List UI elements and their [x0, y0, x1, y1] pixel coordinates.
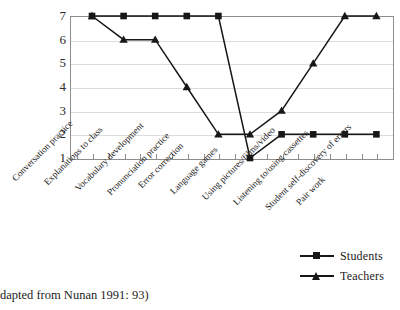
x-axis-label-6: Using pictures/films/video	[200, 125, 277, 202]
figure-caption: dapted from Nunan 1991: 93)	[0, 288, 149, 303]
x-axis-label-0: Conversation practice	[10, 118, 75, 183]
chart-legend: Students Teachers	[300, 246, 398, 286]
x-axis-label-2: Vocabulary development	[73, 121, 145, 193]
legend-label-teachers: Teachers	[340, 269, 384, 284]
figure-line-chart: 1234567 Conversation practiceExplanation…	[0, 0, 400, 310]
legend-item-students[interactable]: Students	[300, 246, 398, 266]
legend-item-teachers[interactable]: Teachers	[300, 266, 398, 286]
legend-label-students: Students	[340, 249, 383, 264]
legend-marker-triangle-icon	[300, 270, 334, 282]
legend-marker-square-icon	[300, 250, 334, 262]
